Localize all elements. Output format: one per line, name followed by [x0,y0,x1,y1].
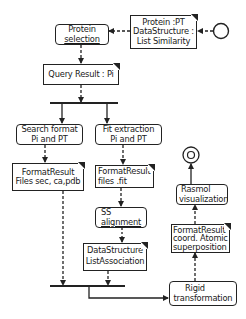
format-result-coord-node[interactable]: FormatResult coord. Atomic superposition [171,224,230,253]
protein-pt-datastructure-node[interactable]: Protein :PT DataStructure : List Similar… [130,15,197,49]
note-fold-icon [78,162,85,169]
diagram-canvas [0,0,246,319]
ss-alignment-node[interactable]: SS alignment [95,207,147,228]
final-node [183,147,199,163]
query-result-node[interactable]: Query Result : Pi [43,64,119,85]
rasmol-visualization-node[interactable]: Rasmol visualization [176,184,228,205]
rigid-transformation-node[interactable]: Rigid transformation [169,281,237,306]
fit-extraction-node[interactable]: Fit extraction Pi and PT [95,124,162,145]
edge-join-to-rigid [89,287,168,298]
note-fold-icon [224,223,231,230]
note-fold-icon [148,164,155,171]
list-association-node[interactable]: DataStructure ListAssociation [83,243,147,271]
note-fold-icon [113,63,120,70]
note-fold-icon [141,242,148,249]
search-format-node[interactable]: Search format Pi and PT [16,124,83,145]
format-result-fit-node[interactable]: FormatResult files .fit [95,165,154,188]
format-result-files-node[interactable]: FormatResult Files sec, ca,pdb [12,163,84,191]
note-fold-icon [191,14,198,21]
initial-node [214,24,229,39]
protein-selection-node[interactable]: Protein selection [55,24,109,45]
